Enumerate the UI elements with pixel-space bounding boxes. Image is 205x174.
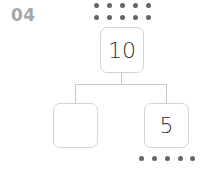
dot <box>165 156 170 161</box>
top-number-box: 10 <box>100 27 144 73</box>
dot <box>178 156 183 161</box>
right-number: 5 <box>160 113 174 138</box>
dot <box>146 3 151 8</box>
dot <box>152 156 157 161</box>
problem-number: 04 <box>11 5 36 25</box>
dot <box>133 3 138 8</box>
connector-vertical-right <box>166 84 167 104</box>
top-number: 10 <box>108 38 136 63</box>
dot <box>139 156 144 161</box>
dot <box>94 3 99 8</box>
dot <box>120 15 125 20</box>
dot <box>107 3 112 8</box>
dot <box>190 156 195 161</box>
connector-vertical-left <box>75 84 76 104</box>
connector-horizontal <box>75 84 167 85</box>
dot <box>107 15 112 20</box>
dot <box>146 15 151 20</box>
dot <box>120 3 125 8</box>
dot <box>133 15 138 20</box>
right-number-box: 5 <box>144 103 189 148</box>
dot <box>94 15 99 20</box>
left-number-box[interactable] <box>53 103 98 148</box>
connector-vertical-top <box>121 73 122 84</box>
